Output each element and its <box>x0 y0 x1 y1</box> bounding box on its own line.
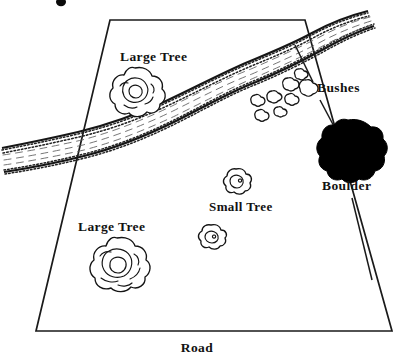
site-map-diagram: Large Tree Large Tree Small Tree Bushes … <box>0 0 406 360</box>
large-tree-lower <box>90 237 150 291</box>
large-tree-upper-canopy <box>110 67 165 116</box>
label-boulder: Boulder <box>322 178 371 193</box>
bush-shape <box>251 95 265 107</box>
boulder-shape <box>317 119 387 183</box>
ink-speck-artifact <box>56 0 66 6</box>
stream-flow-line-3 <box>4 25 372 165</box>
bush-cluster <box>251 69 318 121</box>
label-road: Road <box>181 340 213 355</box>
bush-shape <box>283 78 299 91</box>
bush-shape <box>274 107 287 117</box>
stream-upper-bank <box>2 11 368 148</box>
bush-shape <box>267 91 282 103</box>
bush-shape <box>285 94 299 106</box>
label-small-tree: Small Tree <box>209 199 273 214</box>
bush-shape <box>255 110 269 122</box>
boulder-lower-leader-line <box>352 198 372 280</box>
small-tree-upper-canopy <box>223 169 251 194</box>
boulder-feature <box>317 119 387 183</box>
site-map-svg: Large Tree Large Tree Small Tree Bushes … <box>0 0 406 360</box>
large-tree-upper <box>110 67 165 116</box>
label-large-tree-lower: Large Tree <box>78 219 145 234</box>
bush-shape <box>294 69 308 80</box>
small-tree-upper <box>223 169 251 194</box>
small-tree-lower <box>198 225 226 249</box>
label-large-tree-upper: Large Tree <box>120 49 187 64</box>
label-bushes: Bushes <box>317 80 360 95</box>
bush-shape <box>299 80 318 96</box>
large-tree-lower-canopy <box>90 237 150 291</box>
